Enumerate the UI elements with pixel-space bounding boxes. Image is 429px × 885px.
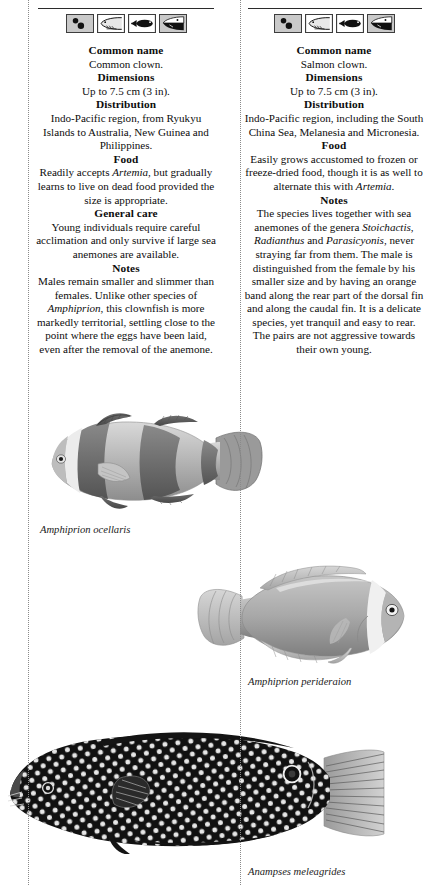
column-rule-right: [248, 8, 422, 9]
section-heading: Food: [34, 153, 218, 167]
species-entry-common-clown: Common name Common clown. Dimensions Up …: [34, 14, 218, 357]
section-heading: Distribution: [244, 98, 424, 112]
fish-head-outline-icon: [305, 14, 333, 33]
section-text: Indo-Pacific region, from Ryukyu Islands…: [34, 112, 218, 153]
figure-caption: Amphiprion perideraion: [248, 676, 351, 687]
figure-caption: Amphiprion ocellaris: [40, 524, 130, 535]
section-text: Young individuals require careful acclim…: [34, 221, 218, 262]
section-heading: Distribution: [34, 98, 218, 112]
figure-amphiprion-perideraion: [196, 560, 422, 668]
fish-head-outline-icon: [97, 14, 125, 33]
section-heading: Common name: [34, 44, 218, 58]
section-heading: Notes: [34, 262, 218, 276]
figure-amphiprion-ocellaris: [38, 404, 266, 522]
column-rule-left: [38, 8, 214, 9]
fish-head-dark-icon: [159, 14, 187, 33]
salmon-clownfish-photo: [196, 560, 422, 668]
clownfish-photo: [38, 404, 266, 522]
section-heading: General care: [34, 207, 218, 221]
fish-head-dark-icon: [367, 14, 395, 33]
section-text: Indo-Pacific region, including the South…: [244, 112, 424, 139]
section-heading: Food: [244, 139, 424, 153]
section-heading: Dimensions: [244, 71, 424, 85]
fish-silhouette-icon: [336, 14, 364, 33]
section-text: Easily grows accustomed to frozen or fre…: [244, 153, 424, 194]
section-text: Up to 7.5 cm (3 in).: [244, 85, 424, 99]
section-text: Readily accepts Artemia, but gradually l…: [34, 166, 218, 207]
pictogram-strip-right: [244, 14, 424, 33]
figure-caption: Anampses meleagrides: [248, 866, 345, 877]
figure-anampses-meleagrides: [2, 722, 426, 854]
section-text: Salmon clown.: [244, 58, 424, 72]
eggs-icon: [274, 14, 302, 33]
section-text: Up to 7.5 cm (3 in).: [34, 85, 218, 99]
section-text: Males remain smaller and slimmer than fe…: [34, 275, 218, 357]
page-guide-line-left: [28, 0, 29, 885]
page-guide-line-center: [240, 0, 241, 885]
spotted-wrasse-photo: [2, 722, 426, 854]
section-heading: Dimensions: [34, 71, 218, 85]
section-text: The species lives together with sea anem…: [244, 207, 424, 357]
section-text: Common clown.: [34, 58, 218, 72]
fish-silhouette-icon: [128, 14, 156, 33]
species-entry-salmon-clown: Common name Salmon clown. Dimensions Up …: [244, 14, 424, 357]
section-heading: Notes: [244, 194, 424, 208]
section-heading: Common name: [244, 44, 424, 58]
eggs-icon: [66, 14, 94, 33]
pictogram-strip-left: [34, 14, 218, 33]
